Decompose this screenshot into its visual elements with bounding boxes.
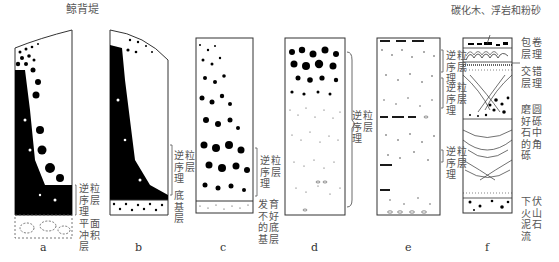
panel-b-label-1: 逆粒序层理 xyxy=(174,150,196,185)
panel-b-column xyxy=(110,30,172,215)
panel-f-label-convolute: 包卷层理 xyxy=(521,37,543,60)
panel-d-letter: d xyxy=(311,241,318,254)
panel-a-label-2: 平面冲积层 xyxy=(79,218,101,253)
panel-c-column xyxy=(196,38,257,213)
panel-f-label-cross: 交错层理 xyxy=(521,66,543,89)
panel-e-label-1: 逆粒序层理 xyxy=(446,50,468,85)
panel-a-letter: a xyxy=(40,241,47,254)
panel-d-label-1: 逆粒序层理 xyxy=(352,110,374,145)
panel-f-label-lahar: 下伏火山泥石流 xyxy=(521,196,543,242)
panel-e-column xyxy=(377,38,443,215)
panel-f-letter: f xyxy=(485,241,489,254)
top-note-f: 碳化木、浮岩和粉砂 xyxy=(451,5,541,16)
panel-f-column xyxy=(463,35,520,213)
panel-e-label-3: 逆粒序层理 xyxy=(446,146,468,181)
panel-c-label-1: 逆粒序层理 xyxy=(260,155,282,190)
panel-a-column xyxy=(15,30,76,238)
panel-d-column xyxy=(285,38,355,215)
panel-b-label-2: 底基层 xyxy=(174,190,185,225)
panel-e-letter: e xyxy=(405,241,412,254)
panel-a-label-1: 逆粒序层理 xyxy=(79,183,101,218)
panel-c-label-2: 发育不好的底基层 xyxy=(258,199,280,245)
panel-e-label-2: 逆粒序层理 xyxy=(446,82,468,117)
panel-b-letter: b xyxy=(135,241,142,254)
title-label: 鲸背堤 xyxy=(66,4,99,15)
panel-f-label-breccia: 磨圆好砾石中的角砾 xyxy=(521,104,543,162)
panel-c-letter: c xyxy=(220,241,226,254)
